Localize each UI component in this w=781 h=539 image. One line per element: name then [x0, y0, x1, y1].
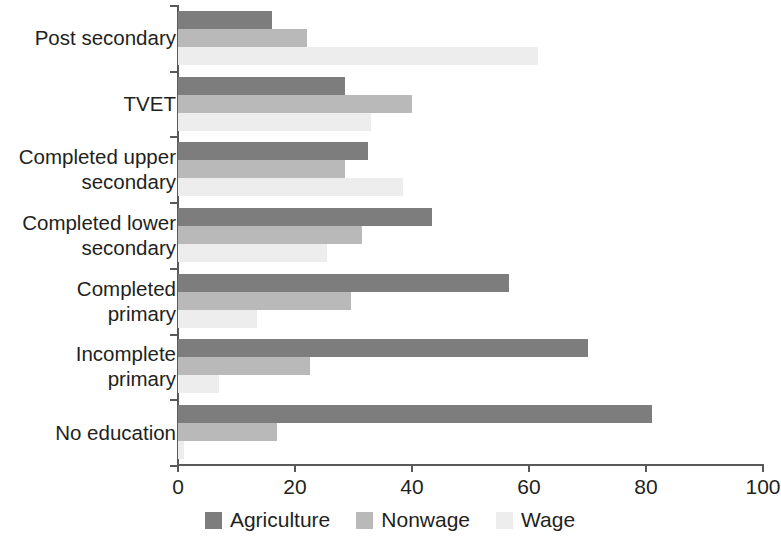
- y-axis-tick: [170, 71, 178, 73]
- category-label: Completed primary: [77, 276, 176, 326]
- bar-agriculture: [178, 142, 368, 160]
- category-label: No education: [55, 420, 176, 445]
- bar-agriculture: [178, 339, 588, 357]
- y-axis-tick: [170, 334, 178, 336]
- bar-wage: [178, 375, 219, 393]
- category-label: Incomplete primary: [76, 341, 176, 391]
- bar-wage: [178, 178, 403, 196]
- x-axis-tick: [645, 464, 647, 472]
- y-axis-tick: [170, 5, 178, 7]
- bar-nonwage: [178, 292, 351, 310]
- category-label: Completed lower secondary: [22, 210, 176, 260]
- bar-nonwage: [178, 160, 345, 178]
- bar-wage: [178, 113, 371, 131]
- legend-swatch-icon: [205, 512, 222, 529]
- legend-swatch-icon: [356, 512, 373, 529]
- x-axis-tick-label: 60: [517, 474, 540, 499]
- bars-layer: [178, 5, 763, 465]
- bar-agriculture: [178, 77, 345, 95]
- legend-label: Nonwage: [381, 508, 470, 532]
- category-label: Post secondary: [35, 25, 176, 50]
- y-axis-tick: [170, 202, 178, 204]
- chart-legend: AgricultureNonwageWage: [0, 508, 780, 532]
- x-axis-tick-label: 100: [745, 474, 780, 499]
- bar-nonwage: [178, 226, 362, 244]
- x-axis-tick: [294, 464, 296, 472]
- bar-nonwage: [178, 95, 412, 113]
- bar-agriculture: [178, 11, 272, 29]
- x-axis-tick-label: 20: [283, 474, 306, 499]
- bar-wage: [178, 244, 327, 262]
- legend-label: Agriculture: [230, 508, 330, 532]
- bar-agriculture: [178, 208, 432, 226]
- legend-item[interactable]: Nonwage: [356, 508, 470, 532]
- bar-wage: [178, 441, 184, 459]
- x-axis-tick: [762, 464, 764, 472]
- legend-item[interactable]: Agriculture: [205, 508, 330, 532]
- y-axis-tick: [170, 136, 178, 138]
- x-axis-tick-label: 0: [172, 474, 184, 499]
- y-axis-tick: [170, 399, 178, 401]
- x-axis-tick-label: 80: [634, 474, 657, 499]
- bar-nonwage: [178, 357, 310, 375]
- x-axis-tick: [528, 464, 530, 472]
- x-axis-tick: [177, 464, 179, 472]
- legend-item[interactable]: Wage: [496, 508, 575, 532]
- bar-nonwage: [178, 423, 277, 441]
- bar-agriculture: [178, 405, 652, 423]
- legend-swatch-icon: [496, 512, 513, 529]
- y-axis-tick: [170, 268, 178, 270]
- x-axis-tick-label: 40: [400, 474, 423, 499]
- category-label: TVET: [124, 91, 176, 116]
- bar-wage: [178, 47, 538, 65]
- category-label: Completed upper secondary: [19, 144, 176, 194]
- legend-label: Wage: [521, 508, 575, 532]
- bar-nonwage: [178, 29, 307, 47]
- bar-wage: [178, 310, 257, 328]
- x-axis-tick: [411, 464, 413, 472]
- bar-agriculture: [178, 274, 509, 292]
